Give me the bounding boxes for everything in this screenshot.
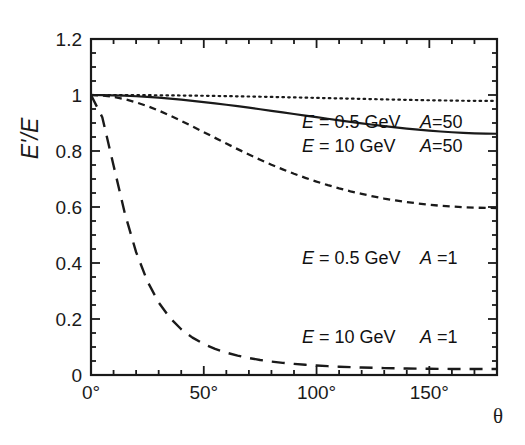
annotation-mass: A =1 [420, 248, 458, 268]
y-tick-label: 1 [20, 86, 82, 105]
annotation-energy: E = 0.5 GeV [302, 113, 420, 131]
annot-dotted: E = 0.5 GeVA=50 [302, 113, 463, 131]
y-tick-label: 0.6 [20, 198, 82, 217]
y-tick-label: 0.2 [20, 310, 82, 329]
annotation-mass: A =1 [420, 327, 458, 347]
annotation-mass: A=50 [420, 112, 463, 132]
annotation-energy: E = 0.5 GeV [302, 249, 420, 267]
x-tick-label: 100° [297, 383, 336, 402]
annotation-mass: A=50 [420, 136, 463, 156]
y-tick-label: 1.2 [20, 30, 82, 49]
x-tick-label: 150° [410, 383, 449, 402]
y-tick-label: 0 [20, 366, 82, 385]
chart-figure: E'/E θ 00.20.40.60.811.2 0°50°100°150° E… [0, 0, 525, 445]
annot-solid: E = 10 GeVA=50 [302, 137, 463, 155]
y-tick-label: 0.8 [20, 142, 82, 161]
annotation-energy: E = 10 GeV [302, 328, 420, 346]
axis-ticks [91, 39, 497, 375]
x-axis-label: θ [493, 404, 503, 429]
x-tick-label: 50° [189, 383, 218, 402]
x-tick-label: 0° [82, 383, 100, 402]
plot-frame [91, 39, 497, 375]
annot-shortdash: E = 0.5 GeVA =1 [302, 249, 458, 267]
annot-longdash: E = 10 GeVA =1 [302, 328, 458, 346]
y-tick-label: 0.4 [20, 254, 82, 273]
annotation-energy: E = 10 GeV [302, 137, 420, 155]
